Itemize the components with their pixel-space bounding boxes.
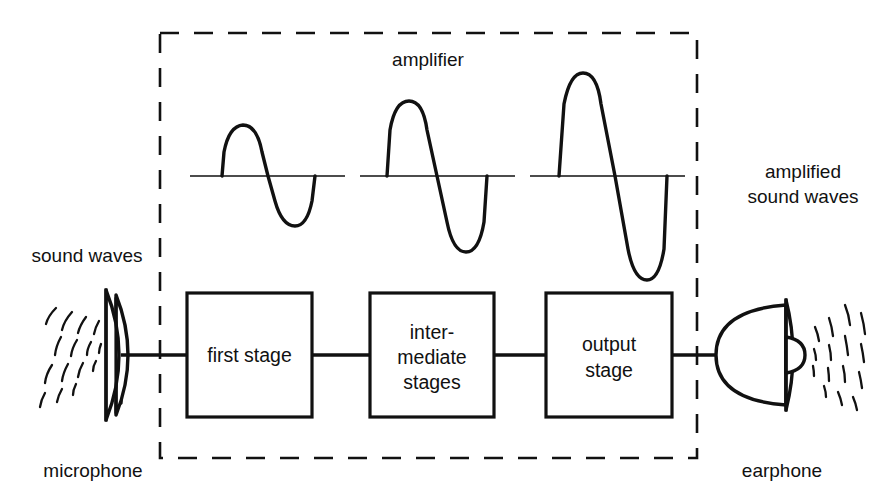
stage-label-output-line2: stage: [585, 359, 633, 381]
amplifier-label: amplifier: [392, 49, 464, 70]
amplifier-enclosure: [160, 33, 697, 458]
earphone-label: earphone: [742, 460, 822, 481]
waveform-small: [190, 125, 345, 226]
amplifier-block-diagram: amplifier sound waves amplified sound wa…: [0, 0, 877, 503]
stage-label-output-line1: output: [582, 333, 637, 355]
stage-box-intermediate-stages: inter- mediate stages: [370, 293, 494, 417]
stage-label-first-stage-line1: first stage: [207, 344, 292, 366]
microphone-label: microphone: [43, 460, 142, 481]
stage-box-first-stage: first stage: [187, 293, 312, 417]
waveform-medium: [360, 101, 515, 252]
stage-label-intermediate-line1: inter-: [410, 321, 454, 343]
amplified-sound-waves-label-line1: amplified: [765, 161, 841, 182]
waveform-large: [530, 73, 685, 280]
amplified-sound-wave-rays: [813, 305, 865, 410]
earphone-icon: [716, 300, 805, 410]
stage-box-output-stage: output stage: [546, 293, 672, 417]
incoming-sound-wave-rays: [40, 308, 101, 407]
sound-waves-label: sound waves: [32, 245, 143, 266]
stage-label-intermediate-line3: stages: [403, 371, 461, 393]
stage-label-intermediate-line2: mediate: [397, 346, 466, 368]
amplified-sound-waves-label-line2: sound waves: [748, 186, 859, 207]
